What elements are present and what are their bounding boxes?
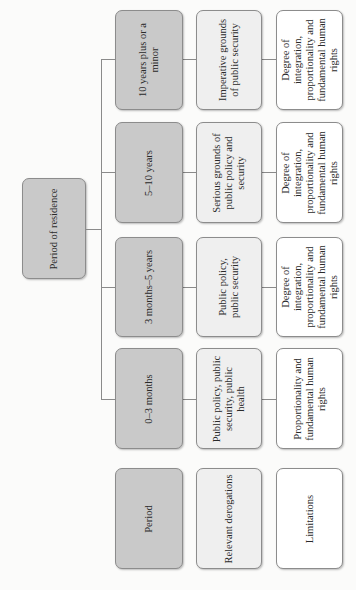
connector-root-to-trunk [86,229,101,230]
limitation-label: Degree of integration, proportionality a… [280,129,340,217]
legend-limitation-label: Limitations [304,475,316,563]
connector-trunk-row-4 [101,399,115,400]
derogation-label: Public policy, public security [217,244,241,330]
derogation-node-row-1: Imperative grounds of public security [196,10,262,110]
limitation-node-row-4: Proportionality and fundamental human ri… [276,348,343,449]
period-label: 10 years plus or a minor [137,17,161,103]
root-node-period-of-residence: Period of residence [22,178,86,279]
derogation-label: Imperative grounds of public security [217,17,241,103]
period-node-row-3: 3 months–5 years [115,237,183,337]
limitation-label: Proportionality and fundamental human ri… [292,355,328,443]
connector-derogation-limitation-row-3 [262,287,276,288]
connector-trunk-row-2 [101,172,115,173]
limitation-node-row-3: Degree of integration, proportionality a… [276,237,343,337]
period-label: 0–3 months [143,356,155,442]
derogation-node-row-4: Public policy, public security, public h… [196,348,262,449]
limitation-node-row-2: Degree of integration, proportionality a… [276,122,343,223]
connector-period-derogation-row-4 [183,399,196,400]
root-node-label: Period of residence [48,184,60,274]
legend-derogation-label: Relevant derogations [223,474,235,564]
connector-trunk [101,59,102,400]
derogation-node-row-2: Serious grounds of public policy and sec… [196,122,262,223]
connector-period-derogation-row-1 [183,59,196,60]
connector-derogation-limitation-row-2 [262,172,276,173]
legend-period: Period [115,468,183,569]
derogation-label: Serious grounds of public policy and sec… [211,131,247,215]
limitation-label: Degree of integration, proportionality a… [280,16,340,104]
connector-derogation-limitation-row-1 [262,59,276,60]
connector-trunk-row-3 [101,287,115,288]
legend-derogation: Relevant derogations [196,468,262,569]
derogation-node-row-3: Public policy, public security [196,237,262,337]
legend-limitation: Limitations [276,468,343,569]
derogation-label: Public policy, public security, public h… [211,354,247,444]
period-node-row-2: 5–10 years [115,122,183,223]
limitation-label: Degree of integration, proportionality a… [280,243,340,331]
connector-period-derogation-row-2 [183,172,196,173]
period-label: 5–10 years [143,130,155,216]
period-node-row-1: 10 years plus or a minor [115,10,183,110]
connector-derogation-limitation-row-4 [262,399,276,400]
connector-period-derogation-row-3 [183,287,196,288]
connector-trunk-row-1 [101,59,115,60]
limitation-node-row-1: Degree of integration, proportionality a… [276,10,343,110]
period-label: 3 months–5 years [143,242,155,332]
period-node-row-4: 0–3 months [115,348,183,449]
legend-period-label: Period [143,476,155,562]
